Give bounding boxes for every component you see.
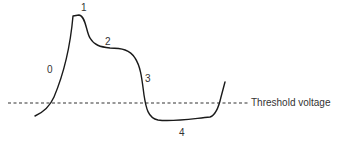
phase-0-label: 0 <box>47 65 53 75</box>
action-potential-curve <box>35 15 225 121</box>
phase-1-label: 1 <box>81 3 87 13</box>
phase-3-label: 3 <box>145 74 151 84</box>
threshold-voltage-label: Threshold voltage <box>251 98 331 108</box>
action-potential-diagram: 0 1 2 3 4 Threshold voltage <box>0 0 341 143</box>
phase-4-label: 4 <box>179 128 185 138</box>
phase-2-label: 2 <box>105 37 111 47</box>
